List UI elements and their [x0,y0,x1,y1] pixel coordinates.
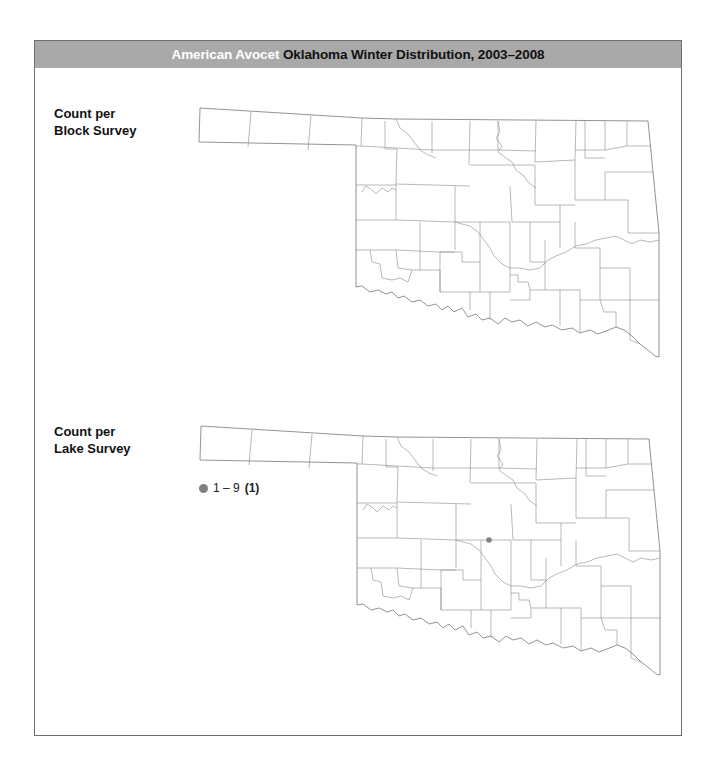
lake-survey-record-dot [486,537,492,543]
maps-layer [0,0,716,768]
block-survey-map [199,108,659,357]
lake-survey-map [200,426,660,675]
